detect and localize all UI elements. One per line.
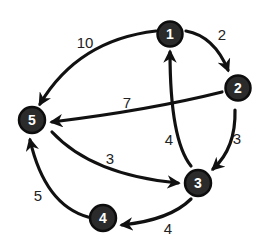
edge-label-4-5: 5 [34, 187, 42, 204]
node-3: 3 [185, 170, 211, 196]
edge-3-to-1 [170, 52, 191, 166]
nodes: 1 2 3 4 5 [19, 22, 251, 232]
node-5: 5 [19, 107, 45, 133]
edge-label-3-4: 4 [164, 220, 172, 237]
edge-5-to-3 [52, 132, 178, 183]
node-5-label: 5 [28, 112, 36, 128]
edge-4-to-5 [30, 140, 88, 217]
node-1: 1 [158, 22, 183, 47]
edge-3-to-4 [122, 199, 191, 225]
edge-label-2-5: 7 [123, 94, 131, 111]
node-2: 2 [226, 76, 251, 101]
edge-label-2-3: 3 [233, 130, 241, 147]
graph-diagram: 2 10 7 3 4 3 4 5 1 2 3 4 5 [0, 0, 273, 249]
edge-2-to-3 [213, 110, 235, 169]
edge-2-to-5 [52, 92, 222, 122]
edge-label-5-3: 3 [106, 150, 114, 167]
node-2-label: 2 [234, 80, 242, 96]
node-1-label: 1 [166, 26, 174, 42]
edge-label-1-2: 2 [218, 26, 226, 43]
node-4-label: 4 [99, 210, 107, 226]
edge-1-to-5 [40, 31, 156, 104]
node-3-label: 3 [194, 175, 202, 191]
node-4: 4 [90, 205, 116, 231]
edges [30, 31, 235, 225]
edge-label-3-1: 4 [165, 131, 173, 148]
edge-label-1-5: 10 [77, 34, 94, 51]
